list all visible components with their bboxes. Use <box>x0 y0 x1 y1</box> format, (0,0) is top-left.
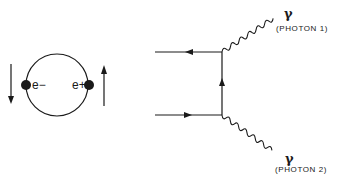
photon-1-wavy-line <box>217 18 278 53</box>
feynman-diagram: γ (PHOTON 1) γ (PHOTON 2) <box>155 6 328 174</box>
arrow-left-icon <box>185 49 193 55</box>
positronium-panel: e− e+ <box>8 54 107 116</box>
photon-2-gamma-symbol: γ <box>285 151 294 166</box>
internal-propagator-line <box>219 52 225 115</box>
spin-up-arrow-icon <box>101 65 107 106</box>
top-fermion-line <box>155 49 222 55</box>
positron-label: e+ <box>72 78 86 92</box>
photon-1-label: (PHOTON 1) <box>276 24 328 33</box>
spin-down-arrow-icon <box>8 64 14 104</box>
arrow-up-icon <box>219 78 225 86</box>
photon-2-wavy-line <box>217 114 277 151</box>
photon-2-label: (PHOTON 2) <box>275 165 327 174</box>
arrow-right-icon <box>184 112 192 118</box>
electron-dot <box>21 80 31 90</box>
electron-label: e− <box>32 78 46 92</box>
photon-1-gamma-symbol: γ <box>284 6 293 21</box>
bottom-fermion-line <box>155 112 222 118</box>
diagram-canvas: e− e+ γ (PHOTON <box>0 0 341 174</box>
